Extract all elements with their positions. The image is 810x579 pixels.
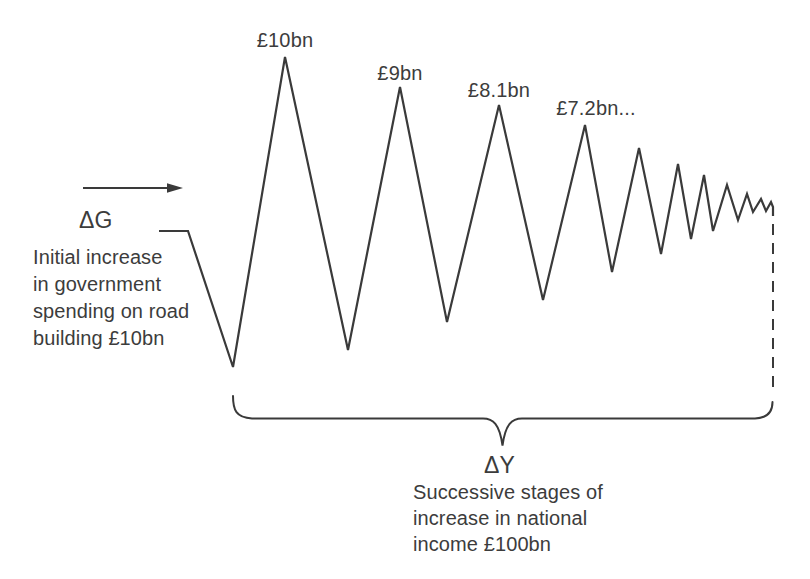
initial-note-line-3: spending on road — [33, 298, 189, 325]
multiplier-zigzag-line — [159, 57, 773, 367]
multiplier-diagram: £10bn £9bn £8.1bn £7.2bn... ΔG Initial i… — [0, 0, 810, 579]
income-note-line-2: increase in national — [413, 505, 603, 531]
flow-arrow-icon — [83, 183, 183, 193]
initial-note-line-4: building £10bn — [33, 325, 189, 352]
sum-brace — [233, 396, 773, 446]
national-income-note: Successive stages of increase in nationa… — [413, 479, 603, 557]
initial-note-line-2: in government — [33, 271, 189, 298]
initial-increase-note: Initial increase in government spending … — [33, 244, 189, 352]
initial-note-line-1: Initial increase — [33, 244, 189, 271]
peak-label-8-1bn: £8.1bn — [468, 79, 530, 102]
peak-label-7-2bn: £7.2bn... — [556, 97, 636, 120]
peak-label-9bn: £9bn — [377, 62, 422, 85]
peak-label-10bn: £10bn — [257, 29, 314, 52]
income-note-line-3: income £100bn — [413, 531, 603, 557]
income-note-line-1: Successive stages of — [413, 479, 603, 505]
delta-y-label: ΔY — [484, 452, 515, 479]
delta-g-label: ΔG — [79, 207, 113, 234]
